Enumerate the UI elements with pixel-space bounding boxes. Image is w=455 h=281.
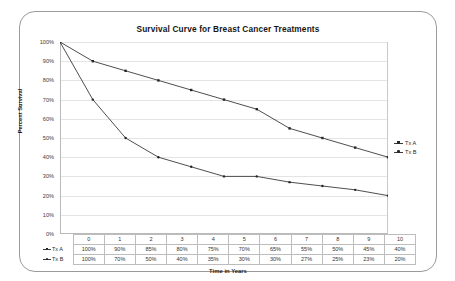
y-axis-tick-label: 60% [43,116,54,122]
table-cell: 45% [353,245,384,255]
table-row-label: Tx B [52,255,63,264]
legend-item-tx-a[interactable]: Tx A [394,139,440,147]
x-axis-tick-label: 9 [353,235,384,245]
x-axis-tick-label: 5 [229,235,260,245]
data-point [190,89,192,91]
table-cell: 80% [167,245,198,255]
y-axis-tick-label: 50% [43,135,54,141]
x-axis-tick-label: 3 [167,235,198,245]
x-axis-tick-label: 8 [322,235,353,245]
legend-label-tx-b: Tx B [405,149,417,155]
data-point [157,156,159,158]
series-svg [60,42,388,234]
table-cell: 30% [260,255,291,265]
table-row-header: Tx A [42,245,73,255]
x-axis-tick-label: 1 [104,235,135,245]
table-cell: 65% [260,245,291,255]
y-axis-tick-label: 70% [43,97,54,103]
table-cell: 40% [167,255,198,265]
table-row: Tx A100%90%85%80%75%70%65%55%50%45%40% [42,245,416,255]
y-axis-tick-label: 80% [43,77,54,83]
legend-marker-circle-icon [394,149,403,155]
table-row-header: Tx B [42,255,73,265]
table-cell: 23% [353,255,384,265]
chart-title: Survival Curve for Breast Cancer Treatme… [20,24,436,34]
table-cell: 85% [135,245,166,255]
data-point [190,166,192,168]
table-cell: 70% [104,255,135,265]
data-point [223,98,225,100]
series-line-tx-b [60,42,388,196]
x-axis-title: Time in Years [20,268,436,274]
table-cell: 50% [322,245,353,255]
table-corner-cell [42,235,73,245]
data-point [387,156,388,158]
y-axis-tick-label: 100% [40,39,54,45]
table-row: Tx B100%70%50%40%35%30%30%27%25%23%20% [42,255,416,265]
chart-legend: Tx A Tx B [394,139,440,157]
data-point [223,175,225,177]
y-axis-tick-label: 10% [43,212,54,218]
data-point [256,175,258,177]
y-axis-tick-label: 90% [43,58,54,64]
data-point [288,127,290,129]
data-point [124,70,126,72]
table-cell: 40% [384,245,415,255]
x-axis-tick-label: 4 [198,235,229,245]
data-point [387,194,388,196]
x-axis-tick-label: 7 [291,235,322,245]
data-point [321,137,323,139]
table-cell: 30% [229,255,260,265]
data-point [92,98,94,100]
data-point [256,108,258,110]
table-cell: 55% [291,245,322,255]
y-axis-tick-label: 30% [43,173,54,179]
data-point [288,181,290,183]
data-point [354,146,356,148]
table-cell: 100% [73,245,104,255]
legend-marker-square-icon [394,140,403,146]
data-table-grid: 012345678910Tx A100%90%85%80%75%70%65%55… [42,234,416,265]
y-axis-title: Percent Survival [17,61,23,161]
x-axis-tick-label: 0 [73,235,104,245]
x-axis-tick-label: 2 [135,235,166,245]
legend-item-tx-b[interactable]: Tx B [394,148,440,156]
legend-label-tx-a: Tx A [405,140,416,146]
legend-marker-square-icon [43,247,51,253]
table-cell: 20% [384,255,415,265]
table-cell: 27% [291,255,322,265]
data-point [321,185,323,187]
table-cell: 70% [229,245,260,255]
data-point [157,79,159,81]
table-cell: 90% [104,245,135,255]
y-axis-tick-label: 20% [43,193,54,199]
y-axis-tick-labels: 0%10%20%30%40%50%60%70%80%90%100% [20,42,58,234]
table-cell: 35% [198,255,229,265]
legend-marker-circle-icon [43,257,51,263]
table-row-label: Tx A [52,245,63,254]
data-point [92,60,94,62]
table-row: 012345678910 [42,235,416,245]
table-cell: 50% [135,255,166,265]
table-cell: 100% [73,255,104,265]
data-table: 012345678910Tx A100%90%85%80%75%70%65%55… [42,234,416,265]
series-markers-tx-a [60,42,388,158]
table-cell: 25% [322,255,353,265]
data-point [354,189,356,191]
data-point [124,137,126,139]
table-cell: 75% [198,245,229,255]
series-canvas [60,42,388,234]
x-axis-tick-label: 10 [384,235,415,245]
x-axis-tick-label: 6 [260,235,291,245]
chart-frame: Survival Curve for Breast Cancer Treatme… [19,11,437,272]
y-axis-tick-label: 40% [43,154,54,160]
